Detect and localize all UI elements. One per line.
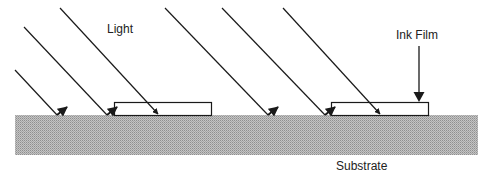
ink-films	[115, 103, 429, 116]
ink-film-pointer-arrow	[414, 46, 425, 102]
light-label: Light	[107, 22, 133, 36]
light-ray-1	[15, 70, 67, 115]
light-ray-2	[24, 27, 117, 115]
ink-film-diagram	[0, 0, 494, 173]
light-ray-6	[283, 8, 380, 114]
reflection-arrow	[57, 107, 67, 115]
ink-film-label: Ink Film	[396, 28, 438, 42]
substrate	[15, 115, 478, 155]
light-ray-4	[165, 8, 278, 115]
substrate-block	[15, 115, 478, 155]
light-rays	[15, 8, 380, 115]
ink-film-1	[115, 103, 212, 116]
light-ray-5	[222, 8, 335, 115]
substrate-label: Substrate	[336, 159, 387, 173]
reflection-arrow	[268, 107, 278, 115]
